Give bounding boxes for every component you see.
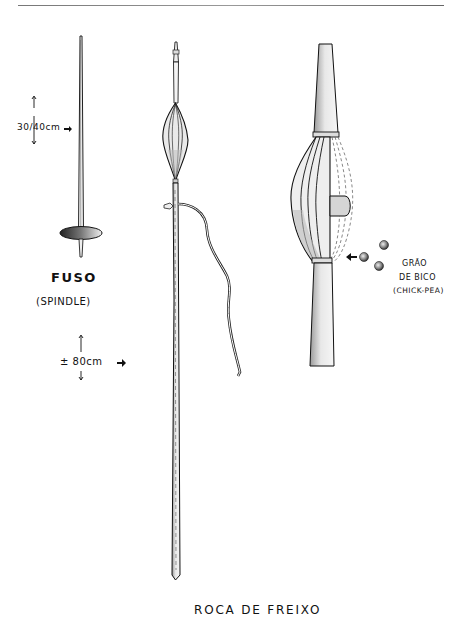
distaff-detail-drawing <box>291 44 389 366</box>
caption: ROCA DE FREIXO <box>194 603 321 617</box>
chick-pea-label-line1: GRÃO <box>402 259 427 268</box>
spindle-pointer-arrow <box>64 126 72 132</box>
chick-pea-label-line2: DE BICO <box>399 273 436 282</box>
spindle-title: FUSO <box>51 270 97 285</box>
distaff-pointer-arrow <box>117 359 126 367</box>
distaff-size-label: ± 80cm <box>60 356 103 367</box>
spindle-subtitle: (SPINDLE) <box>36 296 91 307</box>
spindle-size-label: 30/40cm <box>17 122 60 132</box>
spindle-size-arrows <box>32 96 36 144</box>
distaff-drawing <box>163 42 240 580</box>
illustration-drawing <box>0 0 461 622</box>
chick-pea-label-line3: (CHICK-PEA) <box>393 286 444 295</box>
spindle-drawing <box>60 36 102 257</box>
